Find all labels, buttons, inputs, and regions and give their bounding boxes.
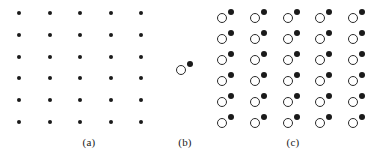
basis-dot <box>359 93 365 99</box>
basis-circle <box>283 97 293 107</box>
basis-dot <box>359 51 365 57</box>
basis-circle <box>217 34 227 44</box>
basis-circle <box>250 97 260 107</box>
basis-dot <box>228 9 234 15</box>
basis-dot <box>228 72 234 78</box>
panel-a-lattice: (a) <box>0 0 160 158</box>
basis-circle <box>315 34 325 44</box>
basis-circle <box>250 13 260 23</box>
lattice-point <box>17 120 21 124</box>
basis-dot <box>261 30 267 36</box>
basis-circle <box>217 97 227 107</box>
basis-dot <box>359 9 365 15</box>
panel-a-points <box>0 0 160 158</box>
basis-dot <box>294 72 300 78</box>
basis-circle <box>315 118 325 128</box>
lattice-point <box>109 55 113 59</box>
basis-dot <box>261 93 267 99</box>
panel-a-caption: (a) <box>49 136 129 148</box>
basis-circle <box>250 34 260 44</box>
crystal-structure-figure: (a) (b) (c) <box>0 0 378 158</box>
lattice-point <box>48 55 52 59</box>
lattice-point <box>78 120 82 124</box>
lattice-point <box>139 76 143 80</box>
basis-circle <box>217 76 227 86</box>
basis-circle <box>348 55 358 65</box>
basis-dot <box>228 30 234 36</box>
basis-dot <box>294 9 300 15</box>
lattice-point <box>139 98 143 102</box>
lattice-point <box>17 33 21 37</box>
basis-circle <box>283 34 293 44</box>
basis-dot <box>187 61 193 67</box>
lattice-point <box>48 76 52 80</box>
panel-b-basis: (b) <box>160 0 210 158</box>
basis-circle <box>283 55 293 65</box>
basis-dot <box>326 72 332 78</box>
basis-dot <box>228 93 234 99</box>
basis-dot <box>326 93 332 99</box>
basis-dot <box>261 114 267 120</box>
basis-dot <box>359 30 365 36</box>
basis-dot <box>294 93 300 99</box>
lattice-point <box>139 120 143 124</box>
basis-circle <box>348 34 358 44</box>
basis-circle <box>315 55 325 65</box>
basis-circle <box>348 97 358 107</box>
basis-dot <box>261 51 267 57</box>
lattice-point <box>48 11 52 15</box>
lattice-point <box>48 98 52 102</box>
lattice-point <box>48 33 52 37</box>
lattice-point <box>109 76 113 80</box>
lattice-point <box>78 11 82 15</box>
basis-dot <box>294 114 300 120</box>
lattice-point <box>17 76 21 80</box>
basis-circle <box>250 118 260 128</box>
lattice-point <box>78 33 82 37</box>
basis-dot <box>326 30 332 36</box>
lattice-point <box>109 98 113 102</box>
lattice-point <box>139 55 143 59</box>
basis-circle <box>217 55 227 65</box>
basis-circle <box>283 76 293 86</box>
basis-circle <box>283 118 293 128</box>
panel-c-points <box>210 0 378 158</box>
basis-circle <box>315 97 325 107</box>
lattice-point <box>17 11 21 15</box>
lattice-point <box>109 120 113 124</box>
lattice-point <box>139 33 143 37</box>
basis-dot <box>228 51 234 57</box>
basis-circle <box>250 55 260 65</box>
basis-circle <box>348 118 358 128</box>
panel-c-caption: (c) <box>253 136 333 148</box>
basis-dot <box>294 30 300 36</box>
basis-circle <box>348 13 358 23</box>
basis-dot <box>359 72 365 78</box>
lattice-point <box>17 55 21 59</box>
panel-c-crystal: (c) <box>210 0 378 158</box>
panel-b-points <box>160 0 210 158</box>
lattice-point <box>109 33 113 37</box>
lattice-point <box>17 98 21 102</box>
basis-dot <box>261 72 267 78</box>
basis-circle <box>217 13 227 23</box>
basis-dot <box>326 51 332 57</box>
lattice-point <box>139 11 143 15</box>
lattice-point <box>48 120 52 124</box>
basis-circle <box>283 13 293 23</box>
basis-dot <box>261 9 267 15</box>
lattice-point <box>78 55 82 59</box>
basis-circle <box>315 76 325 86</box>
basis-dot <box>294 51 300 57</box>
lattice-point <box>78 76 82 80</box>
basis-circle <box>176 65 186 75</box>
basis-circle <box>348 76 358 86</box>
basis-dot <box>326 9 332 15</box>
basis-dot <box>228 114 234 120</box>
basis-dot <box>326 114 332 120</box>
basis-circle <box>217 118 227 128</box>
lattice-point <box>78 98 82 102</box>
basis-dot <box>359 114 365 120</box>
basis-circle <box>315 13 325 23</box>
basis-circle <box>250 76 260 86</box>
